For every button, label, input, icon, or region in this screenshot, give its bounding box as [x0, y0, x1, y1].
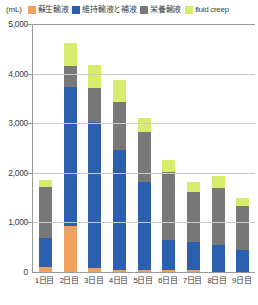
- legend-label: 蘇生輸液: [38, 5, 69, 14]
- bar-segment[interactable]: [39, 238, 52, 267]
- x-axis-tick-label: 7日目: [183, 274, 202, 285]
- y-axis-tick-labels: 01,0002,0003,0004,0005,000: [0, 24, 30, 272]
- bar-group[interactable]: [88, 65, 101, 272]
- x-axis-tick-label: 4日目: [109, 274, 128, 285]
- x-axis-tick-label: 8日目: [207, 274, 226, 285]
- legend-swatch-icon: [72, 6, 80, 14]
- bar-segment[interactable]: [187, 270, 200, 272]
- bar-segment[interactable]: [138, 118, 151, 132]
- chart-legend: (mL) 蘇生輸液 維持輸液と補液 栄養輸液 fluid creep: [6, 3, 256, 16]
- legend-label: fluid creep: [195, 5, 229, 14]
- bar-segment[interactable]: [64, 43, 77, 66]
- bar-group[interactable]: [236, 198, 249, 272]
- bar-segment[interactable]: [39, 180, 52, 187]
- legend-swatch-icon: [28, 6, 36, 14]
- x-axis-tick-label: 6日目: [158, 274, 177, 285]
- x-axis-tick-label: 3日目: [84, 274, 103, 285]
- bar-segment[interactable]: [113, 150, 126, 270]
- bar-segment[interactable]: [64, 87, 77, 226]
- bar-segment[interactable]: [138, 132, 151, 182]
- bar-segment[interactable]: [39, 187, 52, 239]
- bar-segment[interactable]: [113, 270, 126, 272]
- gridline: [33, 123, 255, 124]
- stacked-bar-chart: (mL) 蘇生輸液 維持輸液と補液 栄養輸液 fluid creep 01,00…: [0, 0, 258, 305]
- gridline: [33, 74, 255, 75]
- bar-segment[interactable]: [64, 226, 77, 272]
- bar-segment[interactable]: [64, 66, 77, 87]
- bar-group[interactable]: [187, 182, 200, 272]
- bar-segment[interactable]: [236, 206, 249, 250]
- plot-area: [32, 24, 255, 273]
- bar-segment[interactable]: [88, 268, 101, 272]
- y-axis-tick-label: 0: [24, 267, 28, 277]
- legend-label: 栄養輸液: [150, 5, 181, 14]
- bar-segment[interactable]: [88, 65, 101, 88]
- gridline: [33, 222, 255, 223]
- y-axis-tick: [26, 173, 32, 174]
- y-axis-tick: [26, 24, 32, 25]
- legend-item-3: fluid creep: [185, 5, 229, 14]
- bar-segment[interactable]: [212, 245, 225, 272]
- x-axis-tick-label: 2日目: [59, 274, 78, 285]
- legend-label: 維持輸液と補液: [82, 5, 136, 14]
- bar-segment[interactable]: [236, 250, 249, 272]
- legend-item-0: 蘇生輸液: [28, 5, 69, 14]
- bar-segment[interactable]: [162, 160, 175, 172]
- bar-segment[interactable]: [162, 270, 175, 272]
- bar-segment[interactable]: [212, 188, 225, 245]
- x-axis-tick-label: 5日目: [133, 274, 152, 285]
- bar-group[interactable]: [113, 80, 126, 272]
- gridline: [33, 24, 255, 25]
- bar-segment[interactable]: [113, 102, 126, 150]
- bar-segment[interactable]: [187, 242, 200, 270]
- y-axis-unit-label: (mL): [6, 5, 22, 14]
- bar-segment[interactable]: [39, 267, 52, 272]
- gridline: [33, 173, 255, 174]
- bar-group[interactable]: [138, 118, 151, 272]
- x-axis-tick-labels: 1日目2日目3日目4日目5日目6日目7日目8日目9日目: [32, 274, 254, 288]
- x-axis-tick-label: 1日目: [35, 274, 54, 285]
- bar-segment[interactable]: [88, 88, 101, 122]
- bar-segment[interactable]: [138, 270, 151, 272]
- y-axis-tick: [26, 74, 32, 75]
- bar-group[interactable]: [162, 160, 175, 272]
- bar-group[interactable]: [39, 180, 52, 272]
- y-axis-tick: [26, 222, 32, 223]
- bar-segment[interactable]: [236, 198, 249, 206]
- legend-swatch-icon: [185, 6, 193, 14]
- y-axis-tick: [26, 123, 32, 124]
- bar-group[interactable]: [212, 176, 225, 272]
- bar-segment[interactable]: [187, 182, 200, 192]
- bar-segment[interactable]: [187, 192, 200, 242]
- legend-swatch-icon: [140, 6, 148, 14]
- bar-group[interactable]: [64, 43, 77, 272]
- x-axis-tick-label: 9日目: [232, 274, 251, 285]
- legend-item-1: 維持輸液と補液: [72, 5, 136, 14]
- bar-segment[interactable]: [162, 240, 175, 270]
- bar-series-container: [33, 24, 255, 272]
- legend-item-2: 栄養輸液: [140, 5, 181, 14]
- bar-segment[interactable]: [88, 122, 101, 268]
- bar-segment[interactable]: [138, 182, 151, 270]
- bar-segment[interactable]: [162, 172, 175, 240]
- bar-segment[interactable]: [113, 80, 126, 102]
- bar-segment[interactable]: [212, 176, 225, 188]
